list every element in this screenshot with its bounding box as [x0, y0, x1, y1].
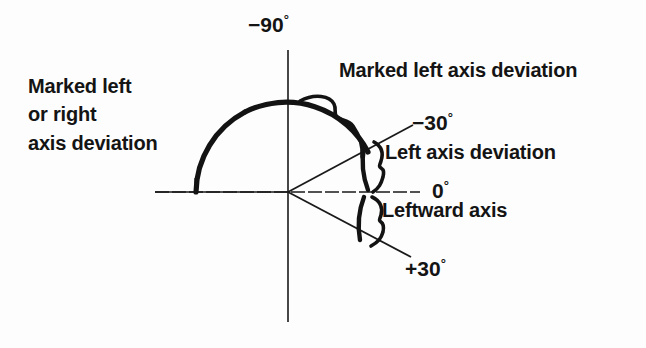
region-label-line-2: or right	[28, 100, 157, 128]
angle-label-minus-90-value: −90	[248, 13, 284, 36]
region-label-leftward-axis: Leftward axis	[382, 198, 507, 224]
arc-leftward-axis	[359, 197, 364, 240]
arc-marked-left-axis-deviation	[245, 102, 368, 152]
axis-deviation-diagram: −90° −30° 0° +30° Marked left axis devia…	[0, 0, 646, 348]
degree-symbol-icon: °	[448, 110, 453, 125]
angle-label-plus-30: +30°	[405, 256, 446, 283]
arc-marked-left-or-right	[196, 112, 245, 192]
degree-symbol-icon: °	[284, 12, 289, 27]
angle-label-minus-30-value: −30	[412, 111, 448, 134]
brace-left-axis-deviation	[373, 142, 384, 192]
angle-label-plus-30-value: +30	[405, 257, 441, 280]
angle-label-minus-30: −30°	[412, 110, 453, 137]
angle-label-minus-90: −90°	[248, 12, 289, 39]
diagram-canvas	[0, 0, 646, 348]
region-label-marked-left-axis-deviation: Marked left axis deviation	[339, 58, 577, 84]
region-label-left-axis-deviation: Left axis deviation	[385, 140, 556, 166]
region-label-line-1: Marked left	[28, 72, 157, 100]
degree-symbol-icon: °	[441, 256, 446, 271]
degree-symbol-icon: °	[444, 178, 449, 193]
region-label-marked-left-or-right-axis-deviation: Marked left or right axis deviation	[28, 72, 157, 157]
region-label-line-3: axis deviation	[28, 129, 157, 157]
